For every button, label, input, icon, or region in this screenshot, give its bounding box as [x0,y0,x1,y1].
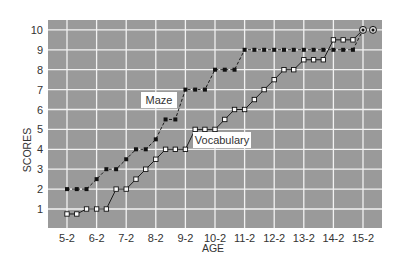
vocabulary-point [272,77,276,81]
x-tick-label: 8-2 [148,232,164,244]
maze-point [312,48,316,52]
x-tick-label: 7-2 [118,232,134,244]
y-axis-ticks: 12345678910 [31,24,43,215]
maze-point [193,88,197,92]
vocabulary-point [104,207,108,211]
maze-point [173,117,177,121]
maze-point [213,68,217,72]
maze-point [203,88,207,92]
vocabulary-point [193,127,197,131]
maze-point [223,68,227,72]
vocabulary-point [144,167,148,171]
vocabulary-point [84,207,88,211]
vocabulary-point [65,212,69,216]
maze-point [341,48,345,52]
x-tick-label: 5-2 [59,232,75,244]
vocabulary-point [94,207,98,211]
y-tick-label: 10 [31,24,43,36]
maze-point [114,167,118,171]
y-tick-label: 1 [37,203,43,215]
y-tick-label: 8 [37,64,43,76]
x-tick-label: 13-2 [293,232,315,244]
y-tick-label: 2 [37,183,43,195]
line-chart: 5-26-27-28-29-210-211-212-213-214-215-2 … [0,0,399,269]
vocabulary-point [114,187,118,191]
maze-point [164,117,168,121]
maze-point [134,147,138,151]
y-tick-label: 6 [37,104,43,116]
vocabulary-point [341,38,345,42]
maze-point [104,167,108,171]
maze-point [75,187,79,191]
x-tick-label: 11-2 [234,232,255,244]
x-tick-label: 15-2 [352,232,374,244]
maze-point [124,157,128,161]
vocabulary-point [351,38,355,42]
maze-point [282,48,286,52]
vocabulary-point [124,187,128,191]
maze-point [95,177,99,181]
maze-annotation: Maze [141,92,177,108]
x-tick-label: 6-2 [89,232,105,244]
x-axis-label: AGE [202,242,224,254]
vocabulary-point [311,58,315,62]
maze-point [262,48,266,52]
legend-endpoint-dot [372,28,375,31]
y-tick-label: 5 [37,123,43,135]
y-tick-label: 7 [37,84,43,96]
maze-point [252,48,256,52]
y-tick-label: 9 [37,44,43,56]
maze-point [65,187,69,191]
vocabulary-point [163,147,167,151]
vocabulary-point [173,147,177,151]
maze-point [331,48,335,52]
vocabulary-point [223,117,227,121]
maze-point [154,137,158,141]
vocabulary-point [75,212,79,216]
maze-label: Maze [146,94,173,106]
maze-point [233,68,237,72]
maze-point [85,187,89,191]
maze-point [144,147,148,151]
vocabulary-point [154,157,158,161]
x-tick-label: 9-2 [177,232,193,244]
y-tick-label: 3 [37,163,43,175]
vocabulary-point [331,38,335,42]
x-tick-label: 12-2 [263,232,285,244]
maze-point [302,48,306,52]
vocabulary-label: Vocabulary [195,134,250,146]
vocabulary-point [262,87,266,91]
y-tick-label: 4 [37,143,43,155]
maze-point [243,48,247,52]
vocabulary-point [232,107,236,111]
vocabulary-point [242,107,246,111]
vocabulary-point [134,177,138,181]
vocabulary-point [282,68,286,72]
vocabulary-point [213,127,217,131]
maze-point [321,48,325,52]
x-tick-label: 14-2 [322,232,344,244]
vocabulary-point [292,68,296,72]
vocabulary-point [252,97,256,101]
maze-point [292,48,296,52]
vocabulary-point [183,147,187,151]
vocabulary-point [203,127,207,131]
y-axis-label: SCORES [21,128,33,172]
vocabulary-point [321,58,325,62]
maze-point [351,48,355,52]
vocabulary-annotation: Vocabulary [193,132,251,148]
vocabulary-point [302,58,306,62]
endpoint-dot [362,28,365,31]
maze-point [183,88,187,92]
maze-point [272,48,276,52]
